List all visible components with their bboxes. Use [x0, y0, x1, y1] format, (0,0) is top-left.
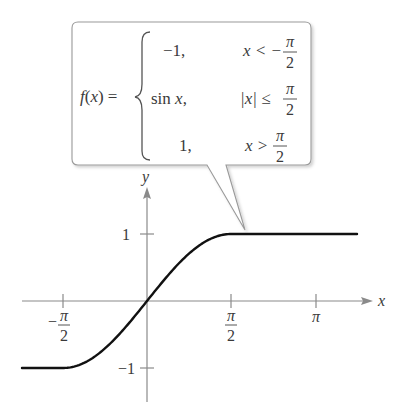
y-tick-label-neg-1: −1 [118, 360, 135, 377]
case-2-pi: π [286, 80, 295, 97]
case-3-condition: x > [244, 136, 268, 155]
function-lhs: f(x) = [80, 87, 117, 106]
x-tick-label-neg-pi: π [60, 307, 69, 324]
case-1-den: 2 [286, 54, 294, 71]
x-tick-label-neg-den: 2 [60, 327, 68, 344]
x-tick-label-den: 2 [227, 327, 235, 344]
y-axis-label: y [140, 168, 150, 186]
x-tick-label-neg-sign: − [48, 313, 57, 330]
x-tick-label-pi-full: π [312, 308, 321, 325]
case-2-den: 2 [286, 101, 294, 118]
case-1-condition: x < − [242, 41, 282, 60]
case-1-pi: π [286, 33, 295, 50]
case-1-value: −1, [163, 41, 185, 60]
case-3-pi: π [276, 127, 285, 144]
chart-canvas: f(x) = −1, x < − π 2 sin x, |x| ≤ π 2 1,… [0, 0, 406, 419]
x-tick-label-pi: π [227, 307, 236, 324]
case-2-condition: |x| ≤ [240, 89, 270, 108]
case-3-den: 2 [276, 148, 284, 165]
case-3-value: 1, [179, 136, 192, 155]
x-axis-label: x [377, 292, 385, 309]
case-2-value: sin x, [151, 89, 187, 108]
y-tick-label-1: 1 [122, 226, 130, 243]
